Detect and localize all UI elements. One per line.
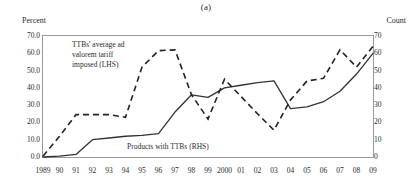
annotation-solid-series: Products with TTBs (RHS) [127,142,209,152]
plot-area [0,0,412,188]
annotation-dashed-line-3: imposed (LHS) [72,60,125,70]
annotation-dashed-line-1: TTBs' average ad [72,40,125,50]
figure-panel: (a) Percent Count 0.010.020.030.040.050.… [0,0,412,188]
annotation-dashed-line-2: valorem tariff [72,50,125,60]
annotation-dashed-series: TTBs' average ad valorem tariff imposed … [72,40,125,70]
